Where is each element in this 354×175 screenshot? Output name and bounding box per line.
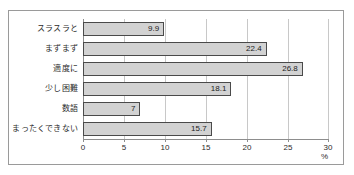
axis-unit-label: % [321,152,328,161]
bar-value-label: 22.4 [246,43,262,55]
x-tick-mark [247,139,248,142]
category-label: 適度に [11,59,83,79]
category-label: スラスラと [11,19,83,39]
x-tick-label: 10 [150,143,180,152]
plot-area: スラスラと 9.9 まずまず 22.4 適度に 26.8 少し困難 [83,19,329,139]
bar-rows: スラスラと 9.9 まずまず 22.4 適度に 26.8 少し困難 [83,19,329,139]
bar-row: スラスラと 9.9 [83,19,329,39]
x-tick-mark [288,139,289,142]
bar: 15.7 [83,122,212,136]
x-tick-mark [206,139,207,142]
category-label: まずまず [11,39,83,59]
bar-row: 適度に 26.8 [83,59,329,79]
bar-row: まったくできない 15.7 [83,119,329,139]
x-tick-label: 15 [191,143,221,152]
x-tick-mark [83,139,84,142]
x-tick-label: 20 [232,143,262,152]
bar: 9.9 [83,22,164,36]
bar-value-label: 9.9 [148,23,159,35]
bar: 22.4 [83,42,267,56]
x-tick-label: 5 [109,143,139,152]
bar: 18.1 [83,82,231,96]
bar-value-label: 7 [131,103,135,115]
bar-row: まずまず 22.4 [83,39,329,59]
chart-figure: スラスラと 9.9 まずまず 22.4 適度に 26.8 少し困難 [8,10,344,165]
category-label: 少し困難 [11,79,83,99]
bar-row: 数語 7 [83,99,329,119]
x-tick-label: 30 [313,143,343,152]
bar-value-label: 26.8 [282,63,298,75]
x-tick-mark [165,139,166,142]
x-tick-mark [124,139,125,142]
x-tick-label: 0 [68,143,98,152]
bar-row: 少し困難 18.1 [83,79,329,99]
x-tick-label: 25 [273,143,303,152]
x-tick-mark [328,139,329,142]
category-label: 数語 [11,99,83,119]
bar-value-label: 15.7 [191,123,207,135]
bar: 26.8 [83,62,303,76]
bar-value-label: 18.1 [211,83,227,95]
category-label: まったくできない [11,119,83,139]
bar: 7 [83,102,140,116]
